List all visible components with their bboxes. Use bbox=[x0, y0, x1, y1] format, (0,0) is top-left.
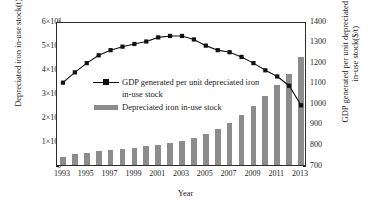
line-marker bbox=[228, 50, 232, 54]
line-marker bbox=[61, 81, 65, 85]
chart-figure: Depreciated iron in-use stock(t) GDP gen… bbox=[0, 0, 371, 208]
legend-label-line-1: GDP generated per unit depreciated iron bbox=[122, 77, 259, 88]
x-tick-label: 2011 bbox=[268, 169, 284, 178]
line-marker bbox=[168, 34, 172, 38]
line-marker bbox=[180, 34, 184, 38]
legend-label-line-2: in-use stock bbox=[122, 89, 259, 100]
line-marker bbox=[156, 35, 160, 39]
line-marker bbox=[132, 42, 136, 46]
right-tick-label: 700 bbox=[310, 161, 322, 170]
x-tick-label: 2003 bbox=[173, 169, 189, 178]
x-tick-label: 2009 bbox=[244, 169, 260, 178]
x-tick-label: 1993 bbox=[54, 169, 70, 178]
line-marker bbox=[251, 61, 255, 65]
legend-item-line: GDP generated per unit depreciated iron bbox=[93, 77, 259, 88]
line-marker bbox=[192, 37, 196, 41]
right-axis-title: GDP generated per unit depreciated iron … bbox=[341, 0, 361, 130]
line-marker bbox=[299, 103, 303, 107]
right-tick-label: 1400 bbox=[310, 17, 326, 26]
x-axis-title: Year bbox=[0, 188, 371, 198]
line-marker bbox=[144, 39, 148, 43]
x-tick-label: 2001 bbox=[149, 169, 165, 178]
x-tick-label: 1997 bbox=[102, 169, 118, 178]
line-marker bbox=[85, 61, 89, 65]
plot-area: GDP generated per unit depreciated iron … bbox=[56, 22, 306, 166]
right-tick-label: 800 bbox=[310, 140, 322, 149]
chart-legend: GDP generated per unit depreciated iron … bbox=[93, 77, 259, 114]
right-tick-label: 1000 bbox=[310, 99, 326, 108]
line-marker bbox=[97, 53, 101, 57]
legend-line-marker-icon bbox=[93, 77, 119, 87]
right-tick-mark bbox=[303, 166, 306, 167]
line-marker bbox=[204, 44, 208, 48]
line-marker bbox=[216, 48, 220, 52]
x-tick-label: 1995 bbox=[78, 169, 94, 178]
x-tick-label: 2013 bbox=[292, 169, 308, 178]
line-marker bbox=[73, 70, 77, 74]
line-marker bbox=[275, 74, 279, 78]
line-marker bbox=[287, 84, 291, 88]
legend-bar-swatch-icon bbox=[93, 102, 119, 112]
x-tick-label: 2007 bbox=[221, 169, 237, 178]
right-tick-label: 1200 bbox=[310, 58, 326, 67]
legend-item-bar: Depreciated iron in-use stock bbox=[93, 102, 259, 113]
line-marker bbox=[108, 48, 112, 52]
left-axis-title: Depreciated iron in-use stock(t) bbox=[14, 0, 24, 128]
right-axis-title-line2: in-use stock($/t) bbox=[351, 0, 361, 130]
line-marker bbox=[120, 45, 124, 49]
right-tick-label: 900 bbox=[310, 119, 322, 128]
right-tick-label: 1100 bbox=[310, 78, 326, 87]
line-marker bbox=[239, 55, 243, 59]
x-tick-label: 1999 bbox=[125, 169, 141, 178]
line-marker bbox=[263, 68, 267, 72]
x-tick-label: 2005 bbox=[197, 169, 213, 178]
right-tick-label: 1300 bbox=[310, 37, 326, 46]
legend-label-bar: Depreciated iron in-use stock bbox=[122, 102, 222, 113]
